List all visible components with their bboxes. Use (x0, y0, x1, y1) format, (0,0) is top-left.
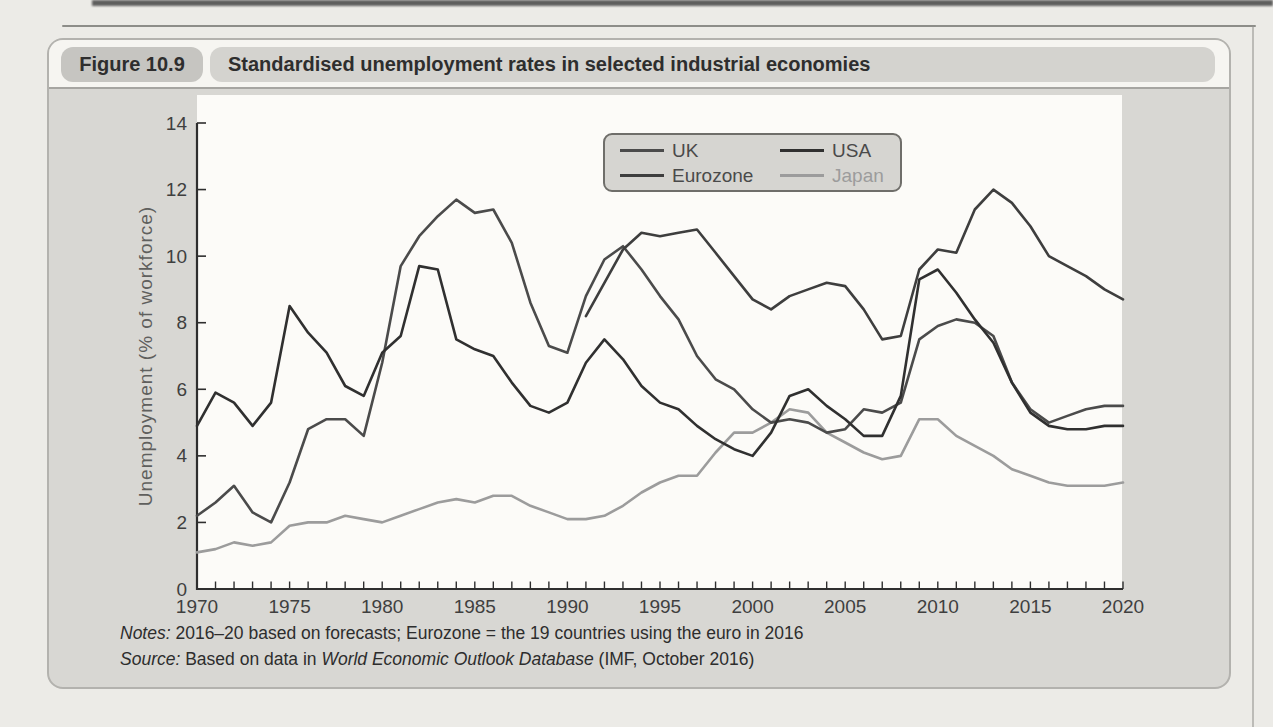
legend-item-eurozone: Eurozone (620, 166, 780, 185)
source-suffix: (IMF, October 2016) (594, 649, 754, 669)
figure-number-badge: Figure 10.9 (61, 47, 203, 82)
figure-title-text: Standardised unemployment rates in selec… (228, 53, 870, 76)
japan-line-swatch (780, 174, 824, 177)
figure-header: Figure 10.9 Standardised unemployment ra… (49, 40, 1229, 89)
y-axis-title: Unemployment (% of workforce) (135, 206, 157, 506)
source-title: World Economic Outlook Database (321, 649, 593, 669)
figure-notes: Notes: 2016–20 based on forecasts; Euroz… (120, 620, 803, 672)
chart-legend: UK USA Eurozone Japan (603, 133, 902, 192)
usa-line-swatch (780, 149, 824, 152)
source-prefix: Based on data in (180, 649, 321, 669)
legend-label-eurozone: Eurozone (672, 166, 753, 185)
eurozone-line-swatch (620, 174, 664, 177)
figure-number-text: Figure 10.9 (79, 53, 185, 76)
uk-line-swatch (620, 149, 664, 152)
legend-item-uk: UK (620, 141, 780, 160)
scan-page-edge-line (1252, 26, 1254, 727)
legend-label-japan: Japan (832, 166, 884, 185)
legend-item-japan: Japan (780, 166, 900, 185)
notes-text: 2016–20 based on forecasts; Eurozone = t… (171, 623, 804, 643)
scan-top-edge-smudge (92, 0, 1273, 6)
figure-title-bar: Standardised unemployment rates in selec… (210, 47, 1215, 82)
notes-line: Notes: 2016–20 based on forecasts; Euroz… (120, 620, 803, 646)
source-label: Source: (120, 649, 180, 669)
legend-label-usa: USA (832, 141, 871, 160)
legend-label-uk: UK (672, 141, 698, 160)
scan-top-rule-line (62, 25, 1256, 27)
notes-label: Notes: (120, 623, 171, 643)
legend-item-usa: USA (780, 141, 900, 160)
source-line: Source: Based on data in World Economic … (120, 646, 803, 672)
